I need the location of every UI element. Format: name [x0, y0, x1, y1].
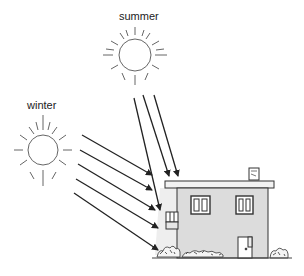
- house-icon: [165, 168, 274, 258]
- door: [238, 237, 252, 258]
- chimney: [249, 168, 259, 180]
- window-left: [191, 196, 210, 214]
- diagram-canvas: [0, 0, 304, 276]
- balcony-railing: [166, 212, 178, 222]
- sun-angle-diagram: summer winter: [0, 0, 304, 276]
- winter-label: winter: [27, 100, 56, 111]
- winter-rays: [74, 135, 158, 250]
- window-right: [236, 196, 253, 214]
- roof-slab: [165, 181, 274, 188]
- summer-sun-icon: [103, 27, 167, 85]
- winter-sun-icon: [14, 115, 72, 186]
- summer-label: summer: [119, 11, 159, 22]
- balcony-slab: [166, 222, 178, 229]
